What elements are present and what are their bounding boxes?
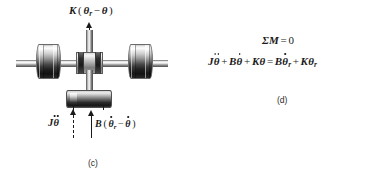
center-hub-band-right <box>95 52 101 74</box>
damper-torque-paren-close: ) <box>131 118 138 129</box>
panel-d-caption: (d) <box>277 95 287 105</box>
damper-torque-theta-dot: θ <box>125 118 130 129</box>
left-flywheel-rim-inner <box>39 45 44 78</box>
damper-dot-r <box>110 116 112 118</box>
center-hub-band-left <box>78 52 84 74</box>
spring-torque-k: K <box>69 4 77 16</box>
damper-dot <box>127 116 129 118</box>
right-flywheel <box>128 44 153 79</box>
spring-torque-label: K(θr−θ) <box>69 4 114 18</box>
damper-torque-theta-glyph: θ <box>125 118 130 129</box>
damper-torque-arrow-shaft <box>91 115 92 138</box>
eom-ddot-2 <box>217 53 219 55</box>
eom-theta-dot: θ <box>237 55 243 67</box>
damper-stub-right <box>103 106 104 110</box>
eom-plus-3: + <box>291 55 300 67</box>
inertia-torque-theta-ddot: θ <box>53 117 59 128</box>
eom-theta-dot-r-glyph: θ <box>282 55 288 67</box>
damper-torque-theta-r-glyph: θ <box>108 118 113 129</box>
inertia-torque-theta: θ <box>53 117 59 128</box>
damper-torque-label: B(θr−θ) <box>95 118 137 130</box>
eom-plus-2: + <box>243 55 252 67</box>
equation-zero: 0 <box>288 34 294 46</box>
eom-dot-1 <box>239 53 241 55</box>
eom-equals: = <box>265 55 274 67</box>
damper-torque-minus: − <box>116 118 125 129</box>
spring-torque-theta: θ <box>102 4 108 16</box>
damper-disk-highlight <box>70 93 77 105</box>
equation-m: M <box>269 34 279 46</box>
eom-theta-ddot-glyph: θ <box>214 55 220 67</box>
left-flywheel-rim-outer <box>53 45 58 78</box>
eom-sub-r-2: r <box>314 60 317 69</box>
eom-plus-1: + <box>220 55 229 67</box>
inertia-torque-label: Jθ <box>48 117 59 128</box>
damper-torque-b: B <box>95 118 102 129</box>
inertia-torque-arrow-head <box>70 109 76 115</box>
damper-torque-theta-dot-r: θ <box>108 118 113 129</box>
inertia-dot-1 <box>54 115 56 117</box>
eom-theta-ddot: θ <box>214 55 220 67</box>
eom-b: B <box>229 55 237 67</box>
figure-page: K(θr−θ) <box>0 0 366 179</box>
eom-ddot-1 <box>214 53 216 55</box>
eom-theta-dot-glyph: θ <box>237 55 243 67</box>
left-flywheel <box>36 44 61 79</box>
panel-c-diagram: K(θr−θ) <box>0 0 190 179</box>
panel-c-caption: (c) <box>88 158 98 168</box>
right-flywheel-rim-outer <box>145 45 150 78</box>
right-flywheel-rim-inner <box>131 45 136 78</box>
eom-k-2: K <box>301 55 309 67</box>
spring-torque-minus: − <box>92 4 101 16</box>
equation-of-motion: Jθ+Bθ+Kθ=Bθr+Kθr <box>208 55 317 69</box>
equation-equals: = <box>279 34 288 46</box>
inertia-dot-2 <box>57 115 59 117</box>
equation-sigma: Σ <box>262 34 269 46</box>
equation-sum-moments: ΣM=0 <box>262 34 294 46</box>
vertical-shaft-lower <box>86 70 93 92</box>
spring-torque-paren-close: ) <box>108 4 115 16</box>
eom-theta-dot-r: θ <box>282 55 288 67</box>
eom-dot-r <box>284 53 286 55</box>
eom-b-2: B <box>275 55 283 67</box>
